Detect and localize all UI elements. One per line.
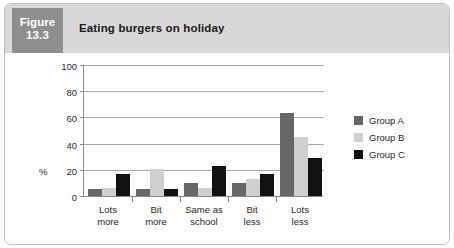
plot-area: 020406080100LotsmoreBitmoreSame asschool… bbox=[83, 66, 323, 197]
y-tick-mark bbox=[80, 196, 84, 197]
x-tick-mark bbox=[276, 197, 277, 202]
x-category-label-line: less bbox=[228, 216, 276, 228]
x-category-label-line: Lots bbox=[84, 204, 132, 216]
figure-title: Eating burgers on holiday bbox=[79, 22, 225, 34]
figure-header: Figure 13.3 Eating burgers on holiday bbox=[5, 4, 449, 53]
bar bbox=[116, 174, 130, 196]
x-category-label-line: more bbox=[132, 216, 180, 228]
bar bbox=[136, 189, 150, 196]
y-axis-title: % bbox=[39, 166, 47, 177]
legend-item[interactable]: Group C bbox=[354, 147, 405, 162]
y-tick-label: 0 bbox=[72, 192, 77, 203]
bar bbox=[246, 179, 260, 196]
chart-legend: Group AGroup BGroup C bbox=[354, 113, 405, 164]
legend-swatch-icon bbox=[354, 133, 363, 142]
bar-group bbox=[136, 65, 178, 196]
bar bbox=[150, 169, 164, 197]
y-tick-label: 100 bbox=[61, 61, 77, 72]
x-tick-mark bbox=[180, 197, 181, 202]
x-category-label: Lotsless bbox=[276, 204, 324, 227]
y-tick-mark bbox=[80, 144, 84, 145]
bar bbox=[294, 137, 308, 196]
x-category-label-line: more bbox=[84, 216, 132, 228]
y-tick-mark bbox=[80, 91, 84, 92]
legend-item[interactable]: Group B bbox=[354, 130, 405, 145]
y-tick-label: 60 bbox=[66, 113, 77, 124]
bar bbox=[260, 174, 274, 196]
bar-group bbox=[88, 65, 130, 196]
x-category-label-line: Same as bbox=[180, 204, 228, 216]
y-tick-mark bbox=[80, 170, 84, 171]
legend-label: Group A bbox=[369, 115, 404, 126]
bar bbox=[164, 189, 178, 196]
x-category-label: Bitless bbox=[228, 204, 276, 227]
figure-number-badge: Figure 13.3 bbox=[12, 8, 63, 53]
legend-swatch-icon bbox=[354, 150, 363, 159]
x-category-label-line: Bit bbox=[132, 204, 180, 216]
bar-group bbox=[184, 65, 226, 196]
chart-area: % 020406080100LotsmoreBitmoreSame asscho… bbox=[5, 53, 450, 245]
x-category-label: Lotsmore bbox=[84, 204, 132, 227]
legend-label: Group C bbox=[369, 149, 405, 160]
x-category-label-line: less bbox=[276, 216, 324, 228]
y-tick-mark bbox=[80, 65, 84, 66]
x-category-label-line: school bbox=[180, 216, 228, 228]
figure-panel: Figure 13.3 Eating burgers on holiday % … bbox=[4, 3, 450, 245]
y-tick-mark bbox=[80, 117, 84, 118]
x-category-label-line: Bit bbox=[228, 204, 276, 216]
bar bbox=[88, 189, 102, 196]
x-category-label-line: Lots bbox=[276, 204, 324, 216]
legend-item[interactable]: Group A bbox=[354, 113, 405, 128]
bar bbox=[212, 166, 226, 196]
bar bbox=[280, 113, 294, 196]
x-tick-mark bbox=[228, 197, 229, 202]
bar bbox=[184, 183, 198, 196]
bar bbox=[232, 183, 246, 196]
y-tick-label: 80 bbox=[66, 87, 77, 98]
legend-label: Group B bbox=[369, 132, 404, 143]
bar bbox=[308, 158, 322, 196]
figure-number-label-line1: Figure bbox=[12, 16, 63, 29]
x-category-label: Bitmore bbox=[132, 204, 180, 227]
figure-number-label-line2: 13.3 bbox=[12, 29, 63, 42]
x-tick-mark bbox=[132, 197, 133, 202]
bar bbox=[102, 188, 116, 196]
bar bbox=[198, 188, 212, 196]
y-tick-label: 40 bbox=[66, 139, 77, 150]
y-tick-label: 20 bbox=[66, 165, 77, 176]
x-category-label: Same asschool bbox=[180, 204, 228, 227]
legend-swatch-icon bbox=[354, 116, 363, 125]
bar-group bbox=[280, 65, 322, 196]
bar-group bbox=[232, 65, 274, 196]
